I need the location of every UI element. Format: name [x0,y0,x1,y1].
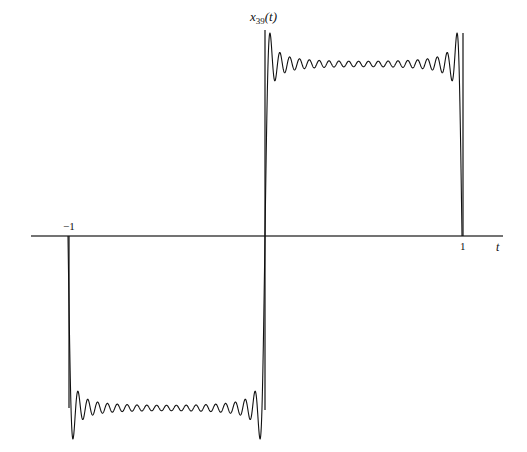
x-tick-plus-one: 1 [460,240,466,252]
x-tick-minus-one: −1 [63,220,75,232]
y-axis-label: x39(t) [250,9,277,26]
y-label-arg: (t) [265,9,277,24]
x-axis-label: t [496,240,499,255]
y-label-subscript: 39 [256,16,265,26]
square-wave-fourier-plot [0,0,527,452]
fourier-series-curve [68,30,463,439]
